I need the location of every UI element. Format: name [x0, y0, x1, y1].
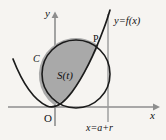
- circle-c-label: C: [33, 53, 40, 64]
- point-p-label: P: [93, 33, 99, 44]
- figure-canvas: y x O P C S(t) y=f(x) x=a+r: [0, 0, 166, 140]
- math-figure: y x O P C S(t) y=f(x) x=a+r: [0, 0, 166, 140]
- x-axis-label: x: [149, 109, 155, 121]
- y-axis-label: y: [44, 7, 50, 19]
- function-curve-label: y=f(x): [113, 15, 141, 27]
- region-area-label: S(t): [57, 69, 73, 82]
- vertical-line-label: x=a+r: [85, 122, 113, 133]
- origin-label: O: [44, 112, 52, 124]
